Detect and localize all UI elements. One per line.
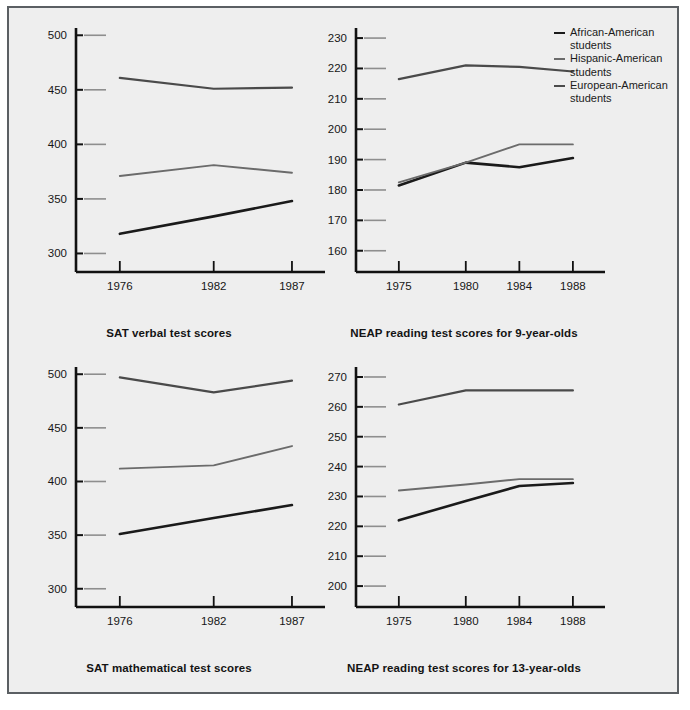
y-tick-label: 200 xyxy=(328,580,347,592)
x-tick-label: 1975 xyxy=(386,615,412,627)
y-tick-label: 300 xyxy=(48,247,67,259)
figure-frame: 300350400450500197619821987 SAT verbal t… xyxy=(7,6,679,694)
chart-panel-sat-verbal: 300350400450500197619821987 SAT verbal t… xyxy=(19,14,335,354)
x-tick-label: 1988 xyxy=(560,615,586,627)
y-tick-label: 220 xyxy=(328,520,347,532)
legend-swatch-african-american xyxy=(554,32,565,34)
data-line-european-american-students xyxy=(399,65,573,79)
y-tick-label: 160 xyxy=(328,245,347,257)
legend-item-european-american: European-American students xyxy=(554,79,686,105)
chart-panel-neap-reading-13: 2002102202302402502602701975198019841988… xyxy=(299,353,615,689)
x-tick-label: 1980 xyxy=(453,615,479,627)
data-line-african-american-students xyxy=(120,505,292,534)
legend-label-african-american: African-American students xyxy=(570,26,686,52)
data-line-african-american-students xyxy=(120,201,292,234)
y-tick-label: 210 xyxy=(328,550,347,562)
x-tick-label: 1976 xyxy=(107,615,133,627)
y-tick-label: 240 xyxy=(328,461,347,473)
y-tick-label: 170 xyxy=(328,214,347,226)
data-line-european-american-students xyxy=(399,390,573,404)
chart-caption-neap-reading-13: NEAP reading test scores for 13-year-old… xyxy=(299,662,629,674)
legend-swatch-european-american xyxy=(554,85,565,87)
legend-item-african-american: African-American students xyxy=(554,26,686,52)
y-tick-label: 250 xyxy=(328,431,347,443)
chart-svg-sat-mathematical: 300350400450500197619821987 xyxy=(19,353,335,659)
chart-svg-neap-reading-13: 2002102202302402502602701975198019841988 xyxy=(299,353,615,659)
y-tick-label: 230 xyxy=(328,490,347,502)
chart-panel-sat-mathematical: 300350400450500197619821987 SAT mathemat… xyxy=(19,353,335,689)
x-tick-label: 1984 xyxy=(507,615,533,627)
y-tick-label: 450 xyxy=(48,422,67,434)
x-tick-label: 1982 xyxy=(201,280,227,292)
y-tick-label: 500 xyxy=(48,29,67,41)
x-tick-label: 1984 xyxy=(507,280,533,292)
y-tick-label: 300 xyxy=(48,583,67,595)
chart-svg-sat-verbal: 300350400450500197619821987 xyxy=(19,14,335,324)
y-tick-label: 260 xyxy=(328,401,347,413)
y-tick-label: 180 xyxy=(328,184,347,196)
y-tick-label: 450 xyxy=(48,84,67,96)
y-tick-label: 400 xyxy=(48,475,67,487)
chart-legend: African-American students Hispanic-Ameri… xyxy=(554,26,686,105)
legend-label-european-american: European-American students xyxy=(570,79,686,105)
y-tick-label: 350 xyxy=(48,193,67,205)
x-tick-label: 1988 xyxy=(560,280,586,292)
x-tick-label: 1975 xyxy=(386,280,412,292)
x-tick-label: 1982 xyxy=(201,615,227,627)
data-line-european-american-students xyxy=(120,78,292,89)
legend-swatch-hispanic-american xyxy=(554,58,565,60)
y-tick-label: 220 xyxy=(328,62,347,74)
data-line-hispanic-american-students xyxy=(120,165,292,176)
y-tick-label: 350 xyxy=(48,529,67,541)
y-tick-label: 270 xyxy=(328,371,347,383)
y-tick-label: 190 xyxy=(328,154,347,166)
x-tick-label: 1980 xyxy=(453,280,479,292)
data-line-hispanic-american-students xyxy=(120,446,292,469)
y-tick-label: 230 xyxy=(328,32,347,44)
data-line-african-american-students xyxy=(399,158,573,185)
y-tick-label: 210 xyxy=(328,93,347,105)
legend-item-hispanic-american: Hispanic-American students xyxy=(554,52,686,78)
chart-caption-sat-mathematical: SAT mathematical test scores xyxy=(19,662,319,674)
legend-label-hispanic-american: Hispanic-American students xyxy=(570,52,686,78)
chart-caption-neap-reading-9: NEAP reading test scores for 9-year-olds xyxy=(299,327,629,339)
data-line-european-american-students xyxy=(120,377,292,392)
y-tick-label: 200 xyxy=(328,123,347,135)
y-tick-label: 500 xyxy=(48,368,67,380)
chart-caption-sat-verbal: SAT verbal test scores xyxy=(19,327,319,339)
y-tick-label: 400 xyxy=(48,138,67,150)
x-tick-label: 1976 xyxy=(107,280,133,292)
